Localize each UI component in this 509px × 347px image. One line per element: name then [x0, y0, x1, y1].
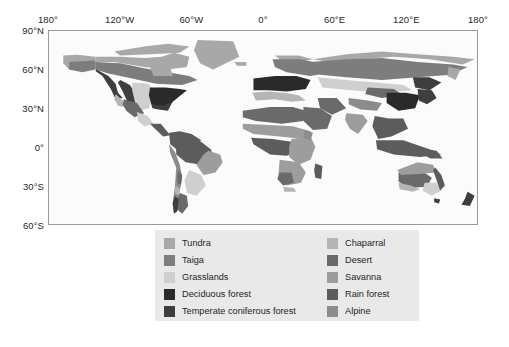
- legend-item-right-4[interactable]: Alpine: [327, 303, 389, 320]
- y-tick-label-3: 0°: [35, 142, 44, 153]
- x-tick-label-3: 0°: [258, 14, 267, 25]
- legend-item-label: Temperate coniferous forest: [182, 306, 296, 317]
- legend-swatch-icon: [164, 306, 175, 317]
- x-tick-label-4: 60°E: [324, 14, 345, 25]
- hudson-bay-cut: [150, 67, 173, 76]
- legend-item-left-2[interactable]: Grasslands: [164, 269, 296, 286]
- y-tick-label-5: 60°S: [23, 220, 44, 231]
- legend-swatch-icon: [327, 238, 338, 249]
- legend-swatch-icon: [327, 272, 338, 283]
- legend-swatch-icon: [327, 306, 338, 317]
- y-tick-label-1: 60°N: [22, 64, 44, 75]
- legend-swatch-icon: [164, 255, 175, 266]
- legend-column-left: TundraTaigaGrasslandsDeciduous forestTem…: [164, 235, 296, 320]
- world-biome-map-canvas: [49, 31, 477, 224]
- legend-item-right-0[interactable]: Chaparral: [327, 235, 389, 252]
- legend-item-left-0[interactable]: Tundra: [164, 235, 296, 252]
- madagascar-rain: [314, 164, 322, 179]
- legend-item-label: Desert: [345, 255, 372, 266]
- y-tick-label-4: 30°S: [23, 181, 44, 192]
- legend-swatch-icon: [164, 238, 175, 249]
- legend-item-left-4[interactable]: Temperate coniferous forest: [164, 303, 296, 320]
- legend-item-left-3[interactable]: Deciduous forest: [164, 286, 296, 303]
- x-tick-label-1: 120°W: [105, 14, 134, 25]
- legend-item-label: Tundra: [182, 238, 211, 249]
- legend-item-right-3[interactable]: Rain forest: [327, 286, 389, 303]
- legend-swatch-icon: [327, 289, 338, 300]
- europe-deciduous: [253, 76, 310, 91]
- y-tick-label-2: 30°N: [22, 103, 44, 114]
- legend-item-label: Alpine: [345, 306, 371, 317]
- legend-panel: TundraTaigaGrasslandsDeciduous forestTem…: [155, 230, 419, 321]
- legend-column-right: ChaparralDesertSavannaRain forestAlpine: [327, 235, 389, 320]
- legend-swatch-icon: [164, 289, 175, 300]
- legend-item-right-1[interactable]: Desert: [327, 252, 389, 269]
- legend-item-label: Chaparral: [345, 238, 385, 249]
- x-tick-label-5: 120°E: [393, 14, 420, 25]
- world-biome-map-figure: 180°120°W60°W0°60°E120°E180° 90°N60°N30°…: [0, 0, 509, 347]
- legend-item-label: Taiga: [182, 255, 204, 266]
- x-tick-label-2: 60°W: [179, 14, 203, 25]
- y-tick-label-0: 90°N: [22, 25, 44, 36]
- legend-item-right-2[interactable]: Savanna: [327, 269, 389, 286]
- legend-item-left-1[interactable]: Taiga: [164, 252, 296, 269]
- legend-item-label: Deciduous forest: [182, 289, 251, 300]
- map-plot-area: [48, 30, 478, 225]
- x-tick-label-6: 180°: [468, 14, 488, 25]
- legend-item-label: Grasslands: [182, 272, 228, 283]
- x-tick-label-0: 180°: [38, 14, 58, 25]
- legend-swatch-icon: [327, 255, 338, 266]
- legend-swatch-icon: [164, 272, 175, 283]
- legend-item-label: Savanna: [345, 272, 381, 283]
- legend-item-label: Rain forest: [345, 289, 389, 300]
